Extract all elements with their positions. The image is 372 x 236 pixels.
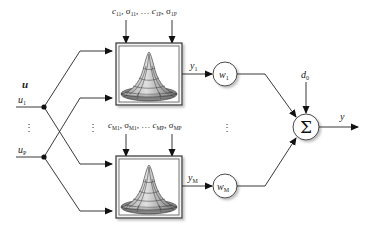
rbf-unit-M-box (116, 156, 182, 218)
rbf-unit-1-box (116, 43, 182, 105)
middle-ellipsis-left: ⋮ (88, 122, 98, 133)
final-output-label: y (339, 111, 345, 122)
svg-text:c11, σ11, … c1P, σ1P: c11, σ11, … c1P, σ1P (112, 6, 177, 17)
summation-node: Σ (293, 114, 319, 140)
input-ellipsis: ⋮ (24, 122, 34, 133)
svg-text:d0: d0 (301, 69, 309, 81)
input-uP-label: uP (18, 144, 27, 156)
input-node-u1 (41, 104, 46, 109)
unit-M-params-label: cM1, σM1, … cMP, σMP (108, 120, 182, 131)
input-u1-label: u1 (18, 94, 26, 106)
output-yM-label: yM (187, 172, 198, 184)
unit-outputs (182, 74, 212, 186)
input-node-uP (41, 154, 46, 159)
unit-M-param-arrows (126, 134, 172, 156)
weight-node-wM: wM (213, 174, 237, 198)
rbf-network-diagram: u u1 uP ⋮ c11, σ11, … c1P, σ1P cM1, σM1,… (0, 0, 372, 236)
unit-1-params-label: c11, σ11, … c1P, σ1P (112, 6, 177, 17)
svg-text:u: u (22, 78, 28, 90)
svg-text:yM: yM (187, 172, 198, 184)
sigma-icon: Σ (300, 117, 312, 137)
svg-text:u1: u1 (18, 94, 26, 106)
weight-node-w1: w1 (213, 62, 237, 86)
unit-1-param-arrows (126, 20, 172, 43)
bias-d0-label: d0 (301, 69, 309, 81)
middle-ellipsis-right: ⋮ (222, 122, 232, 133)
svg-text:cM1, σM1, … cMP, σMP: cM1, σM1, … cMP, σMP (108, 120, 182, 131)
output-y1-label: y1 (189, 60, 197, 72)
svg-text:y1: y1 (189, 60, 197, 72)
svg-text:uP: uP (18, 144, 27, 156)
input-vector-label: u (22, 78, 28, 90)
